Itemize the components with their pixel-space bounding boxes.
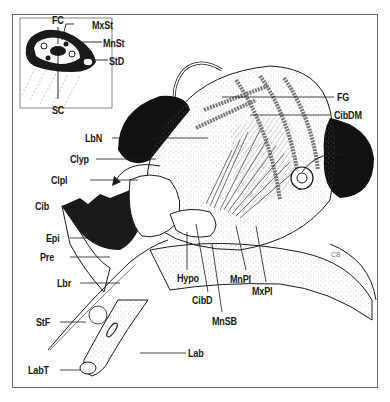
inset-cross-section (20, 18, 112, 108)
artist-signature: CB (331, 251, 341, 258)
label-MnPl: MnPl (230, 273, 251, 285)
label-Cib: Cib (35, 200, 49, 212)
label-LbN: LbN (85, 132, 102, 144)
label-Pre: Pre (40, 251, 54, 263)
label-Epi: Epi (46, 232, 60, 244)
label-FC: FC (52, 14, 64, 26)
label-StF: StF (36, 316, 50, 328)
label-MxSt: MxSt (92, 19, 113, 31)
label-MxPl: MxPl (252, 285, 272, 297)
label-Clpl: Clpl (51, 174, 67, 186)
label-Lbr: Lbr (57, 277, 71, 289)
label-CibD: CibD (192, 294, 212, 306)
mouthparts-illustration (0, 0, 390, 402)
label-SC: SC (52, 104, 64, 116)
label-CibDM: CibDM (334, 109, 362, 121)
label-MnSB: MnSB (212, 315, 237, 327)
label-FG: FG (337, 91, 349, 103)
label-Clyp: Clyp (70, 153, 89, 165)
label-LabT: LabT (28, 364, 49, 376)
label-StD: StD (109, 55, 124, 67)
label-MnSt: MnSt (103, 37, 124, 49)
label-Hypo: Hypo (177, 272, 199, 284)
label-Lab: Lab (188, 347, 204, 359)
